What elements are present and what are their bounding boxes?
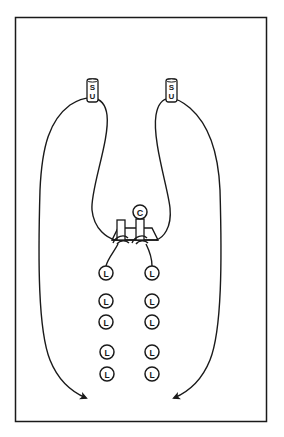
svg-text:L: L bbox=[103, 269, 108, 279]
svg-text:L: L bbox=[149, 348, 154, 358]
coach-label: C bbox=[137, 208, 144, 218]
svg-text:L: L bbox=[149, 297, 154, 307]
setup-marker-right-s: S bbox=[169, 83, 175, 92]
setup-marker-right-u: U bbox=[169, 92, 175, 101]
svg-text:L: L bbox=[149, 269, 154, 279]
svg-text:L: L bbox=[103, 318, 108, 328]
blocking-sled bbox=[112, 219, 158, 244]
svg-text:L: L bbox=[149, 370, 154, 380]
svg-text:L: L bbox=[104, 370, 109, 380]
right-route-path bbox=[155, 98, 221, 398]
player-left-2: L bbox=[99, 294, 113, 308]
left-line-connector bbox=[106, 244, 118, 266]
setup-marker-left-u: U bbox=[90, 92, 96, 101]
player-left-3: L bbox=[99, 315, 113, 329]
player-column-left: L L L L L bbox=[99, 266, 114, 381]
player-left-5: L bbox=[100, 367, 114, 381]
right-line-connector bbox=[146, 244, 152, 266]
player-right-3: L bbox=[145, 315, 159, 329]
coach-marker: C bbox=[133, 205, 147, 219]
svg-text:L: L bbox=[104, 348, 109, 358]
player-left-4: L bbox=[100, 345, 114, 359]
player-column-right: L L L L L bbox=[145, 266, 159, 381]
player-right-1: L bbox=[145, 266, 159, 280]
setup-marker-left: S U bbox=[87, 79, 98, 102]
player-left-1: L bbox=[99, 266, 113, 280]
player-right-4: L bbox=[145, 345, 159, 359]
svg-text:L: L bbox=[103, 297, 108, 307]
svg-text:L: L bbox=[149, 318, 154, 328]
drill-diagram: S U S U C L L L L L L L L L L bbox=[0, 0, 284, 437]
setup-marker-right: S U bbox=[166, 79, 177, 102]
setup-marker-left-s: S bbox=[90, 83, 96, 92]
player-right-2: L bbox=[145, 294, 159, 308]
player-right-5: L bbox=[145, 367, 159, 381]
